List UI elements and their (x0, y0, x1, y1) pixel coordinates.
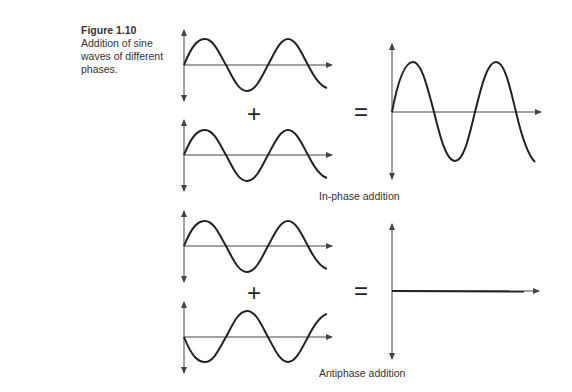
graph-antiphase-a (184, 211, 332, 282)
plus-sign-inphase: + (247, 102, 261, 126)
plus-sign-antiphase: + (247, 281, 261, 305)
equals-sign-inphase: = (354, 100, 368, 124)
graph-inphase-a (184, 30, 332, 101)
diagram-canvas (0, 0, 572, 392)
antiphase-label: Antiphase addition (319, 367, 405, 379)
graph-inphase-b (184, 120, 332, 191)
graph-antiphase-b (184, 302, 332, 373)
graph-inphase-result (392, 44, 541, 179)
graph-antiphase-result (392, 224, 539, 359)
equals-sign-antiphase: = (354, 279, 368, 303)
inphase-label: In-phase addition (319, 190, 400, 202)
flat-line (392, 291, 524, 292)
